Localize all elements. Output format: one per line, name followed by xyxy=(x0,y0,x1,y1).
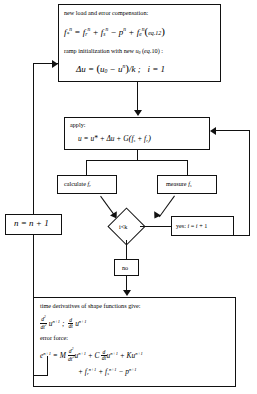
derivatives-equation-1: d2dt2 un+1 ; ddt un+1 xyxy=(40,316,87,330)
error-force-equation: en+1 = M d2dt2un+1 + C ddtun+1 + Kun+1 xyxy=(40,348,143,362)
edge-measure-to-decision xyxy=(159,196,175,218)
calculate-text: calculate xyxy=(64,180,86,187)
apply-caption: apply: xyxy=(70,122,85,128)
decision-label: i<k xyxy=(119,224,127,230)
arrow-no-to-derivatives xyxy=(123,290,131,296)
arrow-measure-to-decision xyxy=(151,211,161,220)
compensation-caption: new load and error compensation: xyxy=(64,10,148,16)
arrow-compensation-to-apply xyxy=(134,110,142,116)
edge-bus-to-measure xyxy=(187,160,188,175)
arrow-yes-loop-to-apply xyxy=(210,127,216,135)
increment-n-label: n = n + 1 xyxy=(14,219,49,228)
no-branch-label: no xyxy=(122,265,128,271)
compensation-equation-1: f*n = frn + fsn − pn + fen(eq.12) xyxy=(64,26,165,38)
compensation-equation-2: Δu = (u0 − un)/k ; i = 1 xyxy=(76,63,165,75)
yes-branch-label: yes: i = i + 1 xyxy=(176,223,207,229)
measure-label: measure fs xyxy=(166,181,191,189)
yes-prefix: yes: xyxy=(176,222,186,229)
edge-decision-to-no xyxy=(126,240,127,259)
edge-yes-loop-top xyxy=(216,130,250,131)
edge-compensation-to-apply xyxy=(137,82,138,112)
arrow-left-loop-to-compensation xyxy=(52,60,58,68)
edge-apply-bus xyxy=(86,160,188,161)
apply-equation: u = u* + Δu + G(fs + fr) xyxy=(78,134,151,144)
edge-yes-loop-right xyxy=(249,130,250,236)
measure-text: measure xyxy=(166,180,187,187)
flowchart-canvas: new load and error compensation: f*n = f… xyxy=(0,0,257,394)
edge-derivatives-loop-stem xyxy=(47,356,48,376)
edge-decision-to-yes xyxy=(140,226,171,227)
error-force-equation-continued: + frn+1 + fsn+1 − pn+1 xyxy=(78,368,137,377)
edge-derivatives-loop-bottom xyxy=(33,375,48,376)
error-force-caption: error force: xyxy=(40,335,68,341)
compensation-caption-2: ramp initialization with new u0 (eq.10) … xyxy=(64,48,163,56)
calculate-label: calculate fr xyxy=(64,181,91,189)
edge-bus-to-calculate xyxy=(86,160,87,175)
edge-yes-loop-bottom xyxy=(234,235,250,236)
derivatives-caption: time derivatives of shape functions give… xyxy=(40,303,141,309)
eq-ref-12: eq.12 xyxy=(148,30,161,36)
